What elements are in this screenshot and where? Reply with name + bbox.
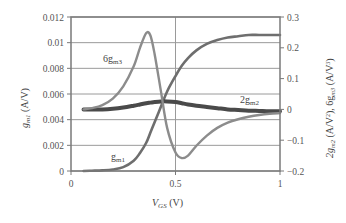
y-tick-left: 0.004 [43, 115, 65, 125]
chart: 00.0020.0040.0060.0080.010.012−0.2−0.100… [0, 0, 346, 223]
y-tick-right: −0.2 [287, 167, 304, 177]
y-tick-left: 0.01 [47, 38, 64, 48]
label-gm1: gm1 [111, 151, 125, 164]
y-axis-right-label: 2gm2 (A/V2), 6gm3 (A/V3) [324, 58, 336, 158]
y-tick-right: −0.1 [287, 136, 304, 146]
y-tick-left: 0.002 [43, 141, 65, 151]
y-tick-left: 0 [59, 167, 64, 177]
label-2gm2: 2gm2 [240, 94, 259, 107]
y-tick-right: 0.1 [287, 74, 299, 84]
y-tick-left: 0.012 [43, 13, 65, 23]
y-tick-left: 0.006 [43, 90, 65, 100]
x-tick: 1 [278, 179, 283, 189]
label-6gm3: 6gm3 [103, 53, 122, 66]
series-6gm3 [84, 32, 280, 158]
y-tick-right: 0.3 [287, 13, 299, 23]
x-axis-label: VGS (V) [152, 197, 183, 210]
y-tick-left: 0.008 [43, 64, 65, 74]
y-tick-right: 0.2 [287, 43, 299, 53]
x-tick: 0 [69, 179, 74, 189]
y-axis-left-label: gm1 (A/V) [19, 88, 32, 128]
x-tick: 0.5 [170, 179, 182, 189]
y-tick-right: 0 [287, 105, 292, 115]
